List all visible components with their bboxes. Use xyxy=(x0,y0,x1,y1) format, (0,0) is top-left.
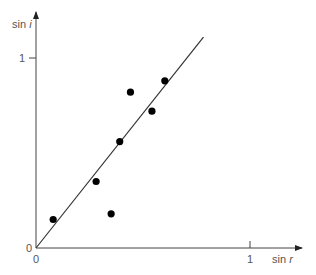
data-point xyxy=(93,178,100,185)
data-point xyxy=(148,108,155,115)
x-tick-label-1: 1 xyxy=(247,253,253,265)
data-point xyxy=(116,138,123,145)
data-point xyxy=(161,77,168,84)
x-axis-title: sin r xyxy=(272,253,294,265)
y-tick-label-1: 1 xyxy=(19,52,25,64)
data-point xyxy=(127,89,134,96)
x-tick-label-0: 0 xyxy=(33,253,39,265)
data-point xyxy=(50,216,57,223)
data-point xyxy=(108,210,115,217)
y-axis-title: sin i xyxy=(12,18,32,30)
scatter-chart: 1 0 0 1 sin i sin r xyxy=(0,0,316,275)
y-tick-label-0: 0 xyxy=(26,242,32,254)
plot-area xyxy=(36,37,203,248)
